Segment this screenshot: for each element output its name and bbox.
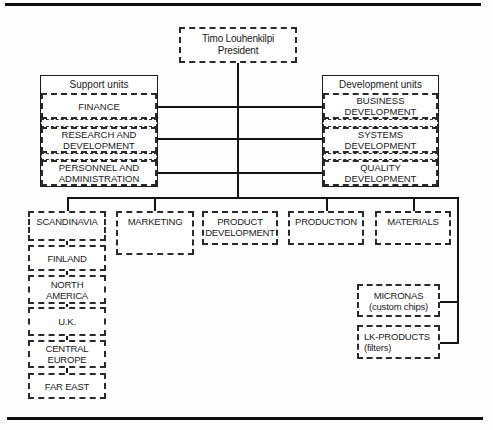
connector-lk-products: [440, 342, 458, 344]
president-title: President: [218, 45, 258, 57]
bottom-rule: [7, 417, 483, 420]
connector-president-trunk: [237, 63, 239, 199]
connector-finance: [158, 106, 322, 108]
region-far-east: FAR EAST: [28, 373, 106, 399]
support-spacer: [41, 153, 157, 160]
region-central-europe: CENTRAL EUROPE: [28, 340, 106, 368]
connector-personnel: [158, 172, 322, 174]
support-unit-finance: FINANCE: [41, 93, 157, 119]
connector-production: [326, 197, 328, 211]
development-unit-quality: QUALITY DEVELOPMENT: [323, 160, 438, 186]
development-units-group: Development units BUSINESS DEVELOPMENT S…: [322, 75, 439, 187]
division-product-development: PRODUCT DEVELOPMENT: [202, 211, 278, 245]
development-spacer: [323, 119, 438, 127]
connector-subsidiary-trunk: [457, 197, 459, 344]
division-scandinavia: SCANDINAVIA: [28, 211, 106, 241]
support-units-group: Support units FINANCE RESEARCH AND DEVEL…: [40, 75, 158, 187]
support-unit-personnel: PERSONNEL AND ADMINISTRATION: [41, 160, 157, 186]
development-spacer: [323, 153, 438, 160]
support-units-header: Support units: [41, 76, 157, 94]
support-unit-research: RESEARCH AND DEVELOPMENT: [41, 127, 157, 153]
development-unit-business: BUSINESS DEVELOPMENT: [323, 93, 438, 119]
region-finland: FINLAND: [28, 245, 106, 271]
division-marketing: MARKETING: [116, 211, 194, 255]
division-production: PRODUCTION: [288, 211, 364, 245]
subsidiary-lk-products: LK-PRODUCTS (filters): [357, 325, 440, 359]
connector-division-bus: [67, 197, 459, 199]
connector-scandinavia: [67, 197, 69, 211]
development-unit-systems: SYSTEMS DEVELOPMENT: [323, 127, 438, 153]
connector-research: [158, 138, 322, 140]
top-rule: [5, 3, 481, 6]
division-materials: MATERIALS: [375, 211, 451, 245]
development-units-header: Development units: [323, 76, 438, 94]
connector-marketing: [154, 197, 156, 211]
connector-materials: [413, 197, 415, 211]
region-north-america: NORTH AMERICA: [28, 275, 106, 304]
president-box: Timo Louhenkilpi President: [179, 27, 297, 63]
president-name: Timo Louhenkilpi: [202, 33, 274, 45]
support-spacer: [41, 119, 157, 127]
connector-micronas: [440, 301, 458, 303]
region-uk: U.K.: [28, 307, 106, 336]
subsidiary-micronas: MICRONAS (custom chips): [357, 284, 440, 317]
